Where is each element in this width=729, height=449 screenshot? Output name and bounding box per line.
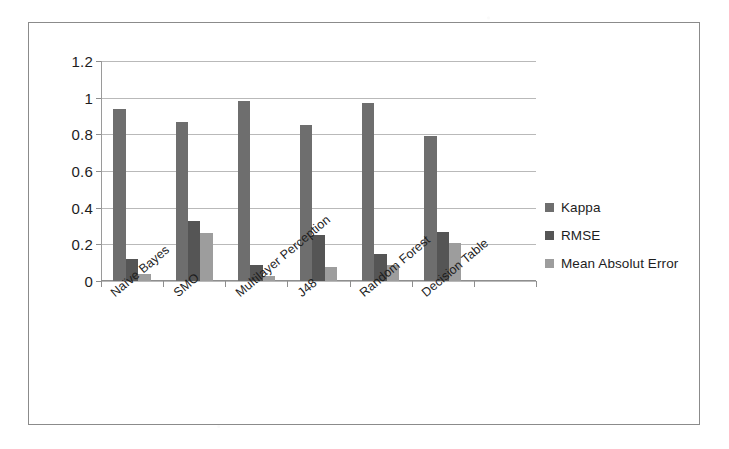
legend-swatch-icon (545, 259, 554, 268)
y-tick-label: 0.4 (72, 199, 93, 216)
gridline (101, 281, 536, 282)
bar (312, 235, 324, 281)
bar-group (176, 61, 213, 281)
bar (362, 103, 374, 281)
chart-legend: KappaRMSEMean Absolut Error (545, 193, 720, 277)
legend-swatch-icon (545, 231, 554, 240)
bar (325, 267, 337, 281)
bar-group (424, 61, 461, 281)
bar (200, 233, 212, 281)
bar-group (300, 61, 337, 281)
bar-group (113, 61, 150, 281)
y-tick-label: 0 (84, 273, 93, 290)
legend-label: Kappa (561, 200, 601, 215)
legend-label: RMSE (561, 228, 600, 243)
legend-item: Mean Absolut Error (545, 249, 720, 277)
bar-group (362, 61, 399, 281)
chart-frame: 00.20.40.60.811.2 Naïve BayesSMOMultilay… (28, 22, 700, 425)
legend-label: Mean Absolut Error (561, 256, 678, 271)
bar (424, 136, 436, 281)
y-tick-label: 0.6 (72, 163, 93, 180)
y-tick-label: 1.2 (72, 53, 93, 70)
legend-item: RMSE (545, 221, 720, 249)
y-tick-label: 1 (84, 89, 93, 106)
bar (176, 122, 188, 282)
x-axis-category-labels: Naïve BayesSMOMultilayer PerceptionJ48Ra… (101, 285, 561, 395)
y-tick-label: 0.2 (72, 236, 93, 253)
bar (113, 109, 125, 281)
bar (238, 101, 250, 281)
y-tick-label: 0.8 (72, 126, 93, 143)
legend-swatch-icon (545, 203, 554, 212)
bar (300, 125, 312, 281)
bar-group (238, 61, 275, 281)
legend-item: Kappa (545, 193, 720, 221)
